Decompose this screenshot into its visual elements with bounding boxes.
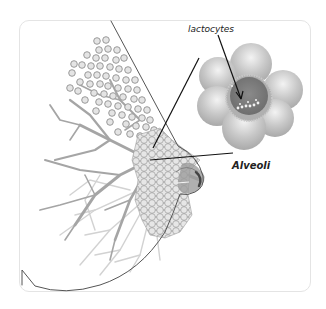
- breast-anatomy-illustration: [0, 0, 326, 309]
- lactocytes-label: lactocytes: [188, 24, 234, 34]
- alveoli-label: Alveoli: [232, 160, 270, 171]
- alveolus-magnified: [197, 43, 303, 150]
- zoom-connector-line: [153, 58, 199, 148]
